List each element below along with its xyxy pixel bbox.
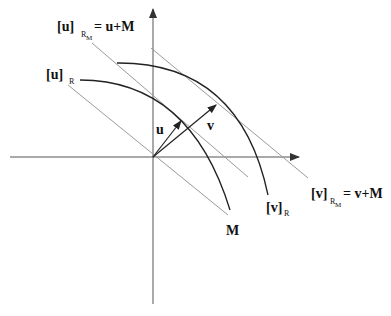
line-v-plus-M — [151, 48, 308, 178]
label-v-R-M: [v] R M = v+M — [311, 186, 383, 209]
vector-diagram: [u] R M = u+M [u] R [v] R M = v+M [v] R … — [0, 0, 391, 316]
svg-text:= u+M: = u+M — [94, 19, 134, 34]
svg-text:= v+M: = v+M — [343, 186, 383, 201]
svg-text:M: M — [335, 201, 342, 209]
svg-text:[v]: [v] — [266, 200, 282, 215]
label-u-R-M: [u] R M = u+M — [57, 19, 134, 42]
arc-u-R — [80, 80, 230, 210]
label-v-R: [v] R — [266, 200, 290, 218]
svg-text:M: M — [86, 34, 93, 42]
label-M: M — [226, 223, 239, 238]
label-vector-u: u — [156, 122, 164, 137]
label-vector-v: v — [207, 118, 214, 133]
svg-text:R: R — [284, 209, 290, 218]
svg-text:R: R — [69, 77, 75, 86]
svg-text:[u]: [u] — [46, 67, 63, 82]
label-u-R: [u] R — [46, 67, 75, 86]
svg-text:[v]: [v] — [311, 186, 327, 201]
svg-text:[u]: [u] — [57, 19, 74, 34]
